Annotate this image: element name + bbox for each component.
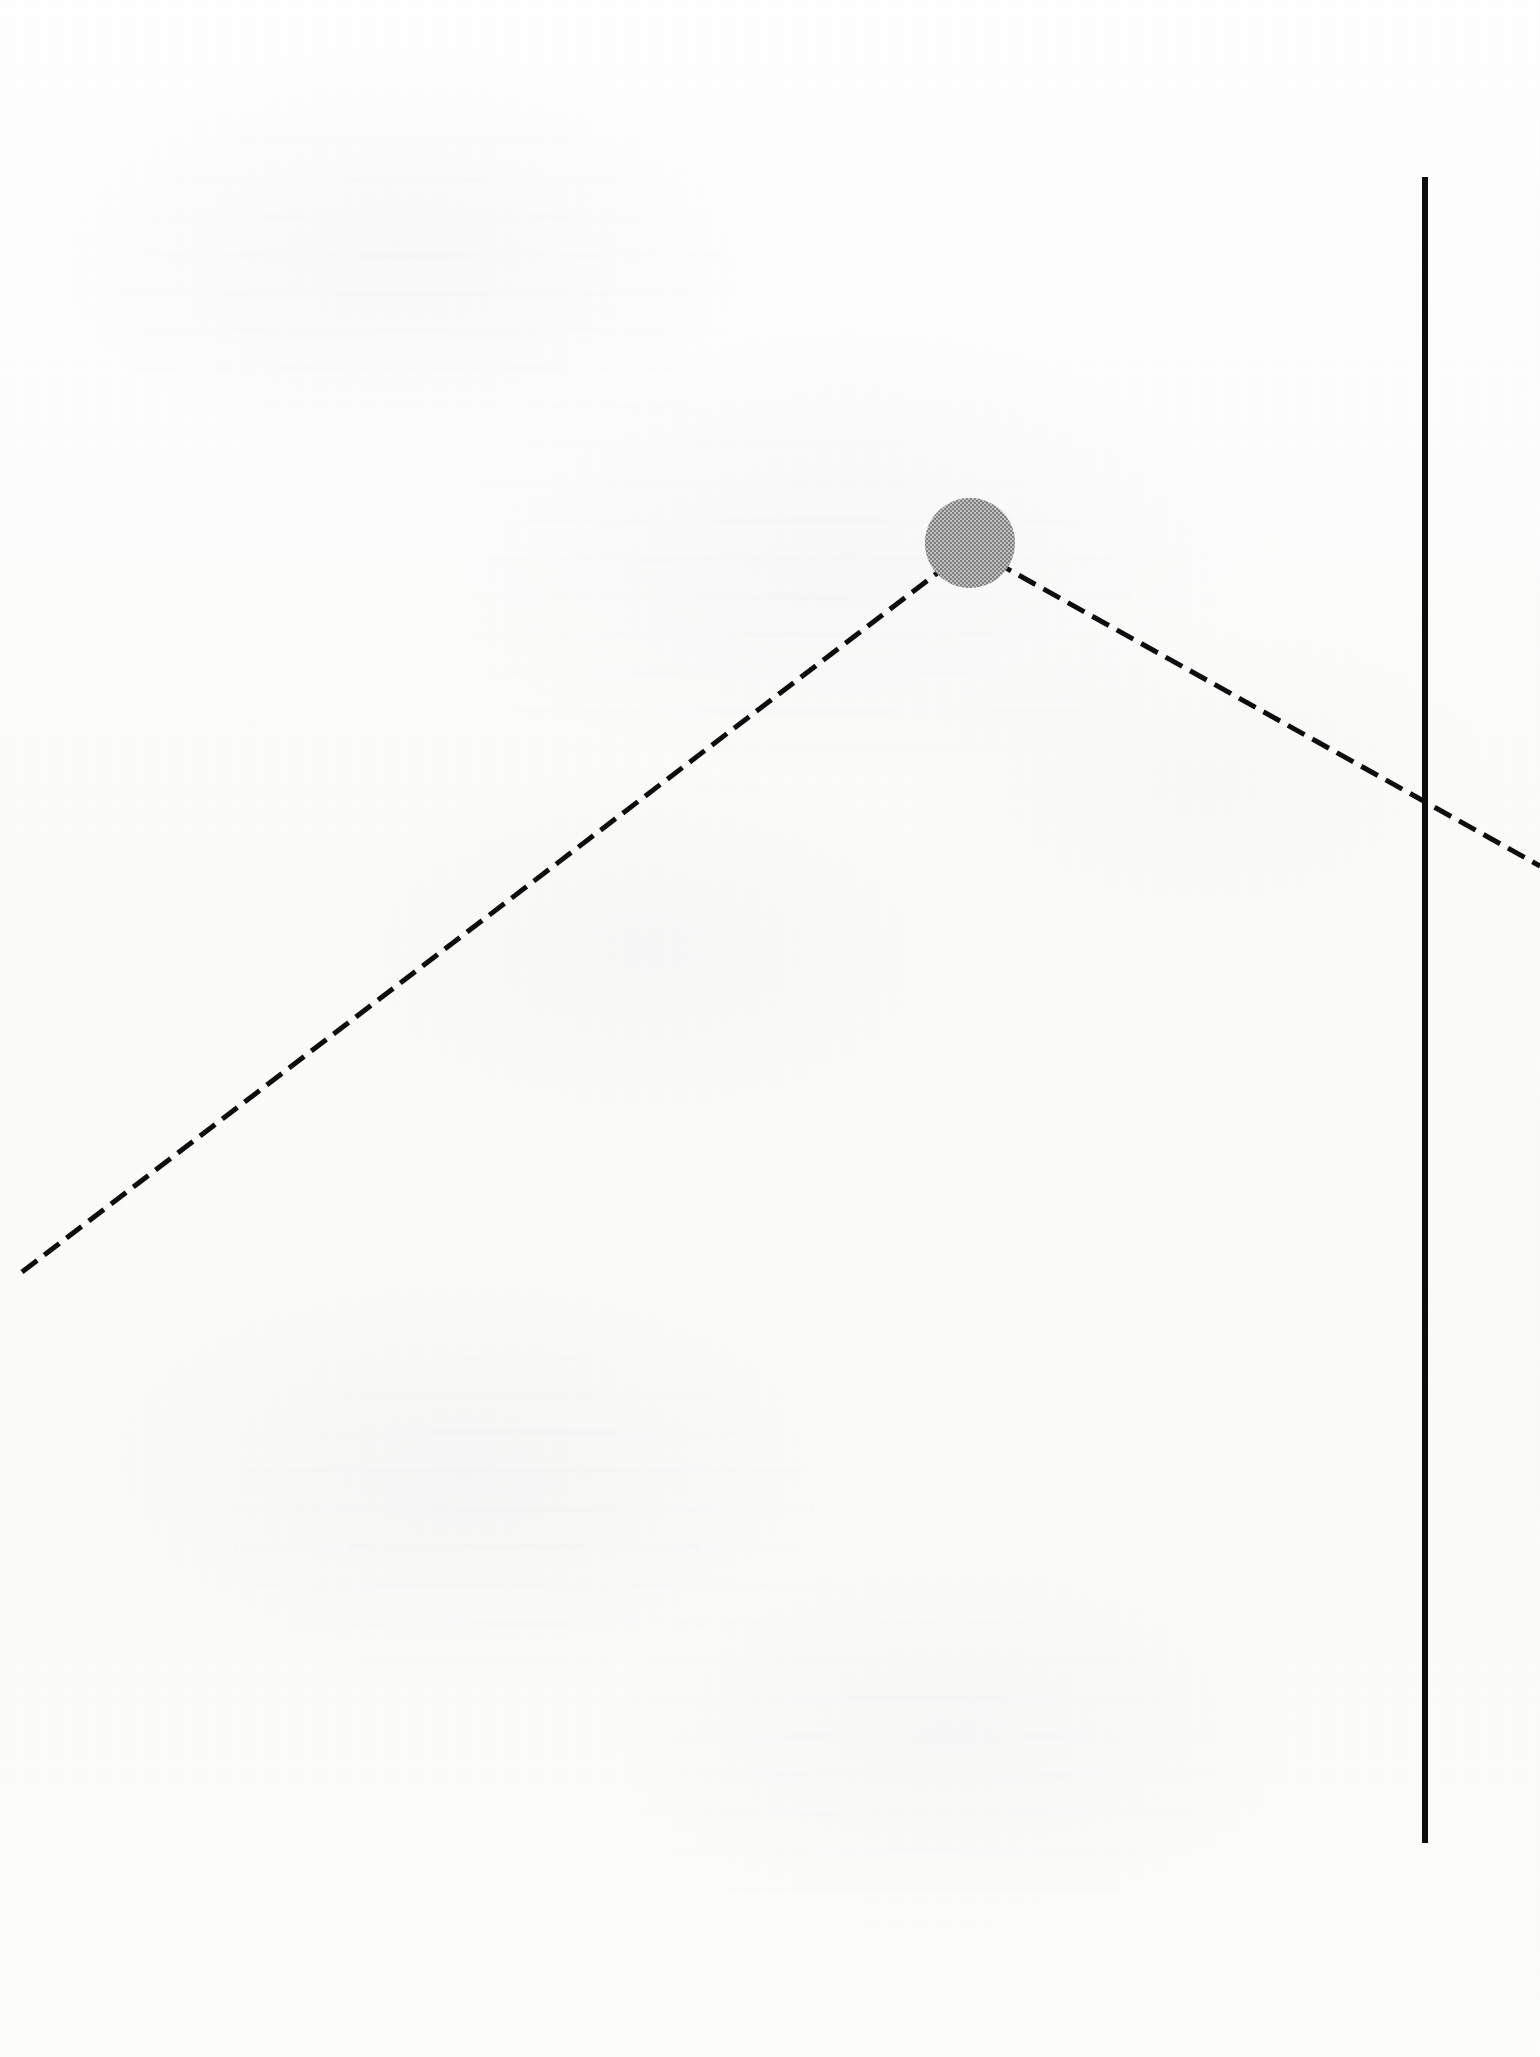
dashed-line-descending-segment: [970, 548, 1540, 866]
scanned-figure-page: Scanned page showing a dashed line risin…: [0, 0, 1540, 2057]
figure-canvas: [0, 0, 1540, 2057]
peak-marker-group: [925, 498, 1015, 588]
dashed-line-ascending-segment: [22, 548, 970, 1272]
dashed-trend-line-group: [22, 548, 1540, 1272]
peak-marker-tone-overlay: [925, 498, 1015, 588]
